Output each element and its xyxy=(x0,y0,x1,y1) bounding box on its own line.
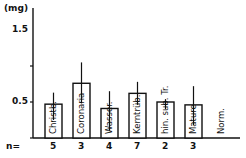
bar-label: Norm. xyxy=(216,108,226,134)
n-label: n= xyxy=(6,141,20,151)
n-value: 7 xyxy=(134,141,140,151)
y-tick-label-1.5: 1.5 xyxy=(0,24,28,34)
y-tick-label-0.5: 0.5 xyxy=(0,96,28,106)
bar-label: Coronaria xyxy=(76,93,86,134)
bar-label: hin. sub. Tr. xyxy=(160,85,170,134)
bar-label: Christb. xyxy=(48,101,58,134)
n-value: 5 xyxy=(50,141,56,151)
bar-label: Kerntrüb. xyxy=(132,95,142,134)
y-axis-label: (mg) xyxy=(4,3,28,13)
bar-chart: (mg) 1.5 0.5 n= Christb.5Coronaria3Wasse… xyxy=(0,0,246,158)
n-value: 4 xyxy=(106,141,112,151)
bar-label: Wasser. xyxy=(104,101,114,134)
bar-label: Mature xyxy=(188,104,198,134)
n-value: 3 xyxy=(190,141,196,151)
n-value: 2 xyxy=(162,141,168,151)
n-value: 3 xyxy=(78,141,84,151)
chart-plot xyxy=(0,0,246,158)
